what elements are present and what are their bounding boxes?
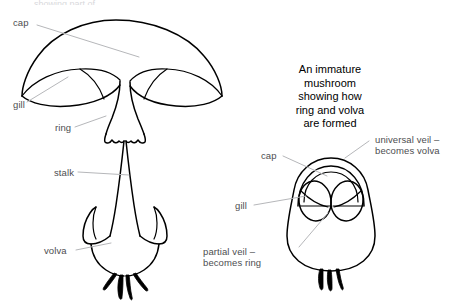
root-tendril-4-path xyxy=(103,273,117,290)
volva-bulb-left-path xyxy=(91,244,124,276)
leader-stalk-mature xyxy=(78,172,129,175)
stalk-right-upper-path xyxy=(130,82,144,134)
stalk-right-shaft-path xyxy=(126,141,140,236)
stalk-left-upper-path xyxy=(106,81,120,134)
immature-mushroom-caption: An immature mushroom showing how ring an… xyxy=(276,63,384,131)
gill-right-inner-path xyxy=(130,69,222,96)
immature-root-tendril-1-path xyxy=(319,269,324,290)
universal-veil-outline-path xyxy=(287,158,375,271)
root-tendril-1-path xyxy=(118,275,123,299)
volva-right-inner-path xyxy=(154,207,157,239)
root-tendril-3-path xyxy=(133,273,148,291)
gill-left-outer-path xyxy=(80,69,104,99)
volva-left-inner-path xyxy=(93,207,96,239)
label-cap-immature: cap xyxy=(261,150,277,161)
immature-root-tendril-3-path xyxy=(336,269,343,290)
leader-partial-veil xyxy=(299,213,328,247)
ring-left-skirt-path xyxy=(105,134,124,143)
volva-left-outer-path xyxy=(83,207,110,244)
leader-ring-mature xyxy=(75,116,106,127)
label-stalk-mature: stalk xyxy=(54,167,74,178)
volva-right-outer-path xyxy=(140,207,167,244)
immature-mushroom-drawing xyxy=(287,158,375,291)
stalk-left-shaft-path xyxy=(110,141,124,236)
ring-right-skirt-path xyxy=(126,134,145,143)
label-partial-veil: partial veil – becomes ring xyxy=(203,246,283,268)
gill-left-inner-path xyxy=(22,69,120,96)
label-cap-mature: cap xyxy=(13,17,29,28)
label-gill-mature: gill xyxy=(13,99,25,110)
cap-outline-path xyxy=(22,20,222,96)
label-ring-mature: ring xyxy=(55,122,71,133)
leader-lines-group xyxy=(27,25,369,250)
label-gill-immature: gill xyxy=(235,200,247,211)
cap-right-rim-path xyxy=(130,86,222,106)
gill-right-outer-path xyxy=(144,69,167,99)
mature-mushroom-drawing xyxy=(22,20,222,300)
immature-root-tendril-2-path xyxy=(327,270,332,291)
leader-gill-mature xyxy=(27,77,68,102)
volva-bulb-right-path xyxy=(126,244,159,276)
leader-universal-veil xyxy=(345,141,369,158)
label-universal-veil: universal veil – becomes volva xyxy=(375,134,451,156)
root-tendril-2-path xyxy=(126,275,132,300)
label-volva-mature: volva xyxy=(44,245,67,256)
